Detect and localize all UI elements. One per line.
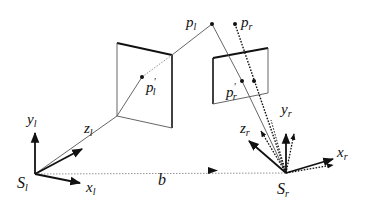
stereo-diagram: pl pr p′l p′r yl zl xl Sl b Sr xr yr zr xyxy=(0,0,367,202)
label-pl: pl xyxy=(185,14,197,32)
left-axes xyxy=(35,133,82,183)
label-baseline: b xyxy=(158,171,166,188)
label-zr: zr xyxy=(239,120,250,138)
ray-pl-to-sr xyxy=(212,24,286,173)
label-pr: pr xyxy=(240,14,253,32)
point-pr-dotted xyxy=(252,79,256,83)
xl-axis xyxy=(35,174,80,183)
label-xl: xl xyxy=(85,179,96,197)
label-yr: yr xyxy=(279,101,292,119)
label-xr: xr xyxy=(336,144,348,162)
label-zl: zl xyxy=(83,120,93,138)
left-projection-ray xyxy=(35,24,212,174)
label-sr: Sr xyxy=(277,180,289,199)
point-pl xyxy=(210,22,214,26)
label-yl: yl xyxy=(25,111,37,129)
left-image-plane xyxy=(117,43,172,128)
zr-axis xyxy=(249,141,286,173)
label-pr-prime: p′r xyxy=(225,81,237,102)
right-axes xyxy=(249,134,333,173)
point-pr xyxy=(233,22,237,26)
label-pl-prime: p′l xyxy=(145,76,157,97)
zl-axis xyxy=(35,149,82,174)
point-pl-prime xyxy=(140,75,144,79)
point-pr-prime xyxy=(240,79,244,83)
right-axes-rotated xyxy=(261,120,333,173)
label-sl: Sl xyxy=(17,174,28,193)
